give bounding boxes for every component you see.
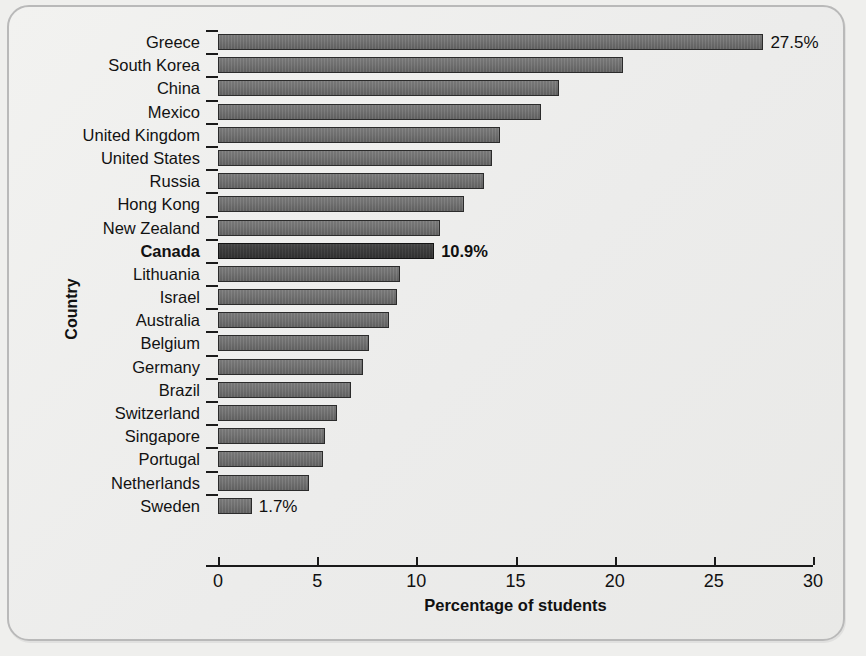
bar-row: Switzerland [0, 402, 866, 425]
y-axis-tick [206, 378, 218, 380]
bar-row: Portugal [0, 448, 866, 471]
bar [218, 220, 440, 236]
category-label: Portugal [0, 448, 200, 471]
y-axis-tick [206, 169, 218, 171]
category-label: Mexico [0, 101, 200, 124]
y-axis-tick [206, 471, 218, 473]
bar [218, 312, 389, 328]
x-axis-tick [615, 557, 617, 565]
bar-row: Belgium [0, 332, 866, 355]
bar [218, 289, 397, 305]
bar [218, 80, 559, 96]
category-label: Singapore [0, 425, 200, 448]
bar-row: Greece27.5% [0, 31, 866, 54]
y-axis-tick [206, 146, 218, 148]
y-axis-tick [206, 123, 218, 125]
bar [218, 475, 309, 491]
x-axis-tick [317, 557, 319, 565]
y-axis-tick [206, 447, 218, 449]
bar-rows: Greece27.5%South KoreaChinaMexicoUnited … [0, 31, 866, 518]
bar-row: United States [0, 147, 866, 170]
bar [218, 382, 351, 398]
bar-row: Lithuania [0, 263, 866, 286]
bar-row: Singapore [0, 425, 866, 448]
category-label: Lithuania [0, 263, 200, 286]
y-axis-tick [206, 355, 218, 357]
y-axis-tick [206, 76, 218, 78]
bar [218, 335, 369, 351]
y-axis-tick [206, 424, 218, 426]
y-axis-tick [206, 494, 218, 496]
x-axis-tick [516, 557, 518, 565]
bar-row: Brazil [0, 379, 866, 402]
category-label: Germany [0, 356, 200, 379]
y-axis-tick [206, 192, 218, 194]
category-label: Greece [0, 31, 200, 54]
bar-row: China [0, 77, 866, 100]
x-axis-tick [813, 557, 815, 565]
bar-row: Netherlands [0, 472, 866, 495]
category-label: Belgium [0, 332, 200, 355]
x-axis-tick [218, 557, 220, 565]
bar [218, 127, 500, 143]
category-label: Israel [0, 286, 200, 309]
category-label: Brazil [0, 379, 200, 402]
bar [218, 266, 400, 282]
y-axis-tick [206, 401, 218, 403]
bar-row: Australia [0, 309, 866, 332]
x-axis-tick [714, 557, 716, 565]
bar [218, 150, 492, 166]
y-axis-tick [206, 216, 218, 218]
bar-row: Russia [0, 170, 866, 193]
y-axis-tick [206, 331, 218, 333]
bar-row: Germany [0, 356, 866, 379]
category-label: New Zealand [0, 217, 200, 240]
y-axis-tick [206, 100, 218, 102]
bar [218, 196, 464, 212]
y-axis-tick [206, 262, 218, 264]
bar [218, 498, 252, 514]
bar-value-label: 27.5% [770, 31, 818, 54]
x-axis-tick-label: 10 [396, 571, 436, 592]
x-axis-tick-label: 5 [297, 571, 337, 592]
bar [218, 359, 363, 375]
x-axis-tick-label: 15 [496, 571, 536, 592]
bar-row: Israel [0, 286, 866, 309]
y-axis-tick [206, 53, 218, 55]
bar-row: South Korea [0, 54, 866, 77]
x-axis-line: 051015202530 [218, 565, 813, 567]
bar-value-label: 10.9% [441, 240, 488, 263]
bar-row: Sweden1.7% [0, 495, 866, 518]
y-axis-tick [206, 239, 218, 241]
x-axis-tick-label: 0 [198, 571, 238, 592]
category-label: Russia [0, 170, 200, 193]
category-label: Australia [0, 309, 200, 332]
y-axis-tick [206, 30, 218, 32]
category-label: United Kingdom [0, 124, 200, 147]
bar-row: Canada10.9% [0, 240, 866, 263]
category-label: Netherlands [0, 472, 200, 495]
category-label: Switzerland [0, 402, 200, 425]
x-axis-tick-label: 20 [595, 571, 635, 592]
x-axis-title: Percentage of students [218, 596, 813, 615]
category-label: Hong Kong [0, 193, 200, 216]
bar-row: Mexico [0, 101, 866, 124]
bar [218, 243, 434, 259]
y-axis-tick [206, 308, 218, 310]
bar [218, 104, 541, 120]
x-axis-tick [416, 557, 418, 565]
bar-chart: Country Greece27.5%South KoreaChinaMexic… [0, 0, 866, 656]
bar-row: New Zealand [0, 217, 866, 240]
category-label: China [0, 77, 200, 100]
bar [218, 34, 763, 50]
y-axis-tick [206, 285, 218, 287]
category-label: United States [0, 147, 200, 170]
category-label: South Korea [0, 54, 200, 77]
bar [218, 451, 323, 467]
bar-value-label: 1.7% [259, 495, 298, 518]
bar [218, 428, 325, 444]
category-label: Sweden [0, 495, 200, 518]
x-axis-left-stub [206, 565, 218, 567]
bar [218, 173, 484, 189]
bar [218, 57, 623, 73]
